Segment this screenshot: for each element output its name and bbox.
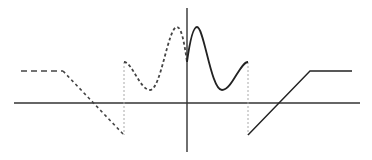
solid-wave-segment — [187, 27, 248, 90]
function-diagram — [0, 0, 372, 160]
dashed-wave-segment — [124, 27, 187, 90]
